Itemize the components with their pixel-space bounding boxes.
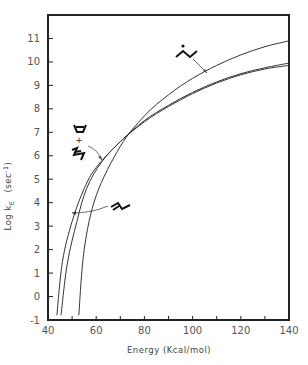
x-axis-title: Energy (Kcal/mol) bbox=[127, 345, 211, 355]
y-axis-title-sub: E bbox=[8, 201, 16, 206]
y-axis-title: Log kE(sec-1) bbox=[2, 162, 16, 231]
x-tick-label: 60 bbox=[90, 325, 103, 336]
y-axis-title-units: (sec bbox=[3, 173, 13, 193]
plot-frame bbox=[48, 15, 289, 320]
x-tick-label: 80 bbox=[138, 325, 151, 336]
data-curves bbox=[57, 41, 289, 316]
y-axis-title-exp: -1 bbox=[2, 165, 10, 172]
axis-ticks: -101234567891011406080100120140 bbox=[27, 33, 298, 336]
diene-structure-icon bbox=[72, 148, 84, 160]
y-tick-label: 8 bbox=[34, 103, 40, 114]
y-tick-label: 6 bbox=[34, 150, 40, 161]
chart: -101234567891011406080100120140 Energy (… bbox=[0, 0, 308, 365]
y-tick-label: 7 bbox=[34, 127, 40, 138]
y-axis-title-close: ) bbox=[3, 162, 13, 166]
curve-series-0 bbox=[79, 41, 289, 316]
plot-border bbox=[48, 15, 289, 320]
plus-sign: + bbox=[75, 135, 83, 145]
x-tick-label: 100 bbox=[183, 325, 202, 336]
svg-text:Log kE(sec-1): Log kE(sec-1) bbox=[2, 162, 16, 231]
y-tick-label: 10 bbox=[27, 56, 40, 67]
y-tick-label: 11 bbox=[27, 33, 40, 44]
y-axis-title-main: Log k bbox=[3, 205, 13, 230]
y-tick-label: 3 bbox=[34, 221, 40, 232]
y-tick-label: 5 bbox=[34, 174, 40, 185]
x-tick-label: 140 bbox=[279, 325, 298, 336]
y-tick-label: 0 bbox=[34, 291, 40, 302]
y-tick-label: -1 bbox=[30, 315, 40, 326]
alkene-leader-arrow bbox=[72, 206, 108, 213]
curve-series-1 bbox=[57, 63, 289, 315]
y-tick-label: 4 bbox=[34, 197, 40, 208]
x-tick-label: 120 bbox=[231, 325, 250, 336]
y-tick-label: 2 bbox=[34, 244, 40, 255]
curve-series-2 bbox=[61, 65, 289, 315]
y-tick-label: 1 bbox=[34, 268, 40, 279]
radical-structure-icon bbox=[176, 44, 197, 57]
alkene-structure-icon bbox=[111, 203, 130, 210]
cyclobutene-structure-icon bbox=[74, 125, 86, 132]
diene-arrowhead-icon bbox=[98, 156, 102, 160]
x-tick-label: 40 bbox=[42, 325, 55, 336]
y-tick-label: 9 bbox=[34, 80, 40, 91]
